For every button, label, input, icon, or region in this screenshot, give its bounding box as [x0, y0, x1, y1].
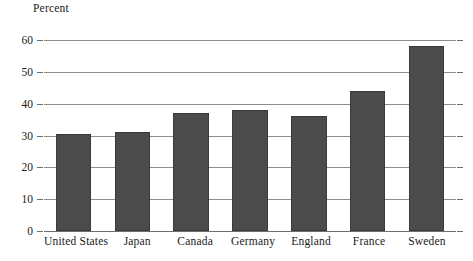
x-tick-label: Japan	[108, 233, 166, 249]
y-tick-mark-right-50	[457, 72, 463, 73]
y-tick-mark-right-60	[457, 40, 463, 41]
y-tick-mark-right-20	[457, 167, 463, 168]
y-tick-mark-left-40	[37, 104, 43, 105]
y-tick-mark-right-30	[457, 136, 463, 137]
y-tick-mark-right-40	[457, 104, 463, 105]
bar-slot	[279, 40, 338, 231]
y-tick-label-10: 10	[22, 192, 34, 207]
y-tick-label-60: 60	[22, 33, 34, 48]
y-tick-mark-left-0	[37, 231, 43, 232]
x-tick-label: United States	[44, 233, 108, 249]
y-tick-mark-right-10	[457, 199, 463, 200]
x-tick-label: Germany	[224, 233, 282, 249]
y-tick-label-40: 40	[22, 97, 34, 112]
bar	[291, 116, 326, 231]
bar	[409, 46, 444, 231]
x-axis-category-labels: United StatesJapanCanadaGermanyEnglandFr…	[44, 233, 456, 249]
bar	[350, 91, 385, 231]
y-tick-label-20: 20	[22, 160, 34, 175]
bar-slot	[44, 40, 103, 231]
y-tick-mark-left-20	[37, 167, 43, 168]
y-tick-mark-left-10	[37, 199, 43, 200]
bar-slot	[338, 40, 397, 231]
y-tick-mark-right-0	[457, 231, 463, 232]
y-tick-mark-left-50	[37, 72, 43, 73]
bar-slot	[397, 40, 456, 231]
x-tick-label: France	[340, 233, 398, 249]
bar	[115, 132, 150, 231]
plot-area: 6050403020100	[44, 40, 456, 231]
bar-slot	[103, 40, 162, 231]
y-tick-mark-left-30	[37, 136, 43, 137]
y-tick-mark-left-60	[37, 40, 43, 41]
bar-chart-figure: Percent 6050403020100 United StatesJapan…	[0, 0, 473, 261]
x-tick-label: England	[282, 233, 340, 249]
bar-slot	[221, 40, 280, 231]
bars-layer	[44, 40, 456, 231]
gridline-0: 0	[44, 231, 456, 232]
y-tick-label-0: 0	[27, 224, 33, 239]
bar-slot	[162, 40, 221, 231]
x-tick-label: Sweden	[398, 233, 456, 249]
x-tick-label: Canada	[166, 233, 224, 249]
bar	[56, 134, 91, 231]
y-tick-label-30: 30	[22, 129, 34, 144]
y-tick-label-50: 50	[22, 65, 34, 80]
bar	[232, 110, 267, 231]
bar	[173, 113, 208, 231]
y-axis-unit-label: Percent	[33, 1, 69, 15]
